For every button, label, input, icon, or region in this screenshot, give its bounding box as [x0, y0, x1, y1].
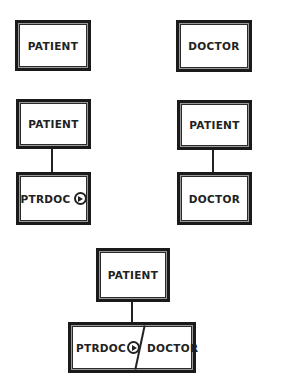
- patient-parent-box: PATIENT: [177, 100, 252, 150]
- patient-parent-box: PATIENT: [16, 99, 91, 149]
- ptrdoc-pointer-box: PTRDOC: [16, 172, 91, 225]
- ptrdoc-label: PTRDOC: [76, 342, 126, 354]
- connector-line: [51, 149, 53, 172]
- patient-label: PATIENT: [28, 118, 78, 130]
- connector-line: [212, 150, 214, 172]
- patient-label: PATIENT: [189, 119, 239, 131]
- play-circle-icon: [74, 192, 87, 205]
- doctor-label: DOCTOR: [188, 40, 239, 52]
- ptrdoc-doctor-combined-box: PTRDOC DOCTOR: [68, 322, 196, 373]
- patient-label: PATIENT: [28, 40, 78, 52]
- doctor-child-box: DOCTOR: [177, 172, 252, 225]
- patient-label: PATIENT: [108, 269, 158, 281]
- patient-parent-box: PATIENT: [96, 248, 170, 302]
- doctor-label: DOCTOR: [147, 342, 198, 354]
- connector-line: [131, 302, 133, 322]
- doctor-entity-box: DOCTOR: [176, 20, 252, 72]
- patient-entity-box: PATIENT: [15, 20, 91, 71]
- ptrdoc-label: PTRDOC: [20, 193, 70, 205]
- doctor-label: DOCTOR: [189, 193, 240, 205]
